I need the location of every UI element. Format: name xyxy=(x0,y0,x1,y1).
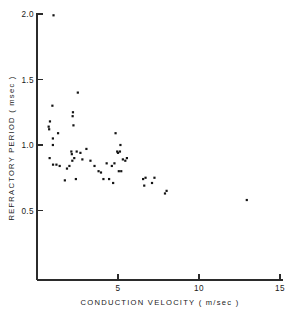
data-point xyxy=(49,120,51,122)
data-point xyxy=(59,165,61,167)
data-point xyxy=(77,92,79,94)
data-point xyxy=(93,165,95,167)
y-tick-label: 2.0 xyxy=(21,10,34,19)
data-point xyxy=(79,152,81,154)
data-point xyxy=(73,157,75,159)
data-point xyxy=(48,126,50,128)
data-point xyxy=(76,150,78,152)
data-point xyxy=(113,162,115,164)
data-point xyxy=(52,137,54,139)
data-point xyxy=(89,160,91,162)
y-tick-label: 0.5 xyxy=(21,207,34,216)
data-point xyxy=(72,111,74,113)
y-tick-label: 1.0 xyxy=(21,141,34,150)
x-axis-ticks: 51015 xyxy=(116,274,285,293)
data-point xyxy=(126,157,128,159)
data-point xyxy=(52,144,54,146)
data-point xyxy=(143,185,145,187)
data-point xyxy=(246,199,248,201)
data-point xyxy=(122,158,124,160)
data-point xyxy=(108,178,110,180)
data-point xyxy=(119,150,121,152)
y-axis-title: REFRACTORY PERIOD ( msec ) xyxy=(7,75,16,220)
data-point xyxy=(117,152,119,154)
data-point xyxy=(164,192,166,194)
data-point xyxy=(52,164,54,166)
x-axis-title: CONDUCTION VELOCITY ( m/sec ) xyxy=(81,298,240,307)
data-point xyxy=(85,148,87,150)
data-point xyxy=(51,105,53,107)
x-tick-label: 10 xyxy=(194,284,204,293)
data-point xyxy=(112,182,114,184)
data-point xyxy=(144,177,146,179)
scatter-plot-figure: 0.51.01.52.0 51015 CONDUCTION VELOCITY (… xyxy=(0,0,292,316)
data-point xyxy=(48,128,50,130)
data-point xyxy=(64,179,66,181)
data-point xyxy=(68,165,70,167)
data-point xyxy=(66,167,68,169)
data-point xyxy=(124,160,126,162)
data-point xyxy=(49,157,51,159)
data-point xyxy=(120,170,122,172)
data-point xyxy=(52,14,54,16)
data-points-layer xyxy=(48,14,248,201)
data-point xyxy=(72,115,74,117)
data-point xyxy=(166,190,168,192)
data-point xyxy=(72,124,74,126)
data-point xyxy=(75,178,77,180)
y-axis-ticks: 0.51.01.52.0 xyxy=(21,10,43,216)
y-tick-label: 1.5 xyxy=(21,76,34,85)
data-point xyxy=(57,132,59,134)
data-point xyxy=(151,182,153,184)
plot-canvas: 0.51.01.52.0 51015 CONDUCTION VELOCITY (… xyxy=(0,0,292,316)
data-point xyxy=(70,150,72,152)
data-point xyxy=(142,178,144,180)
data-point xyxy=(111,165,113,167)
data-point xyxy=(71,153,73,155)
data-point xyxy=(118,170,120,172)
data-point xyxy=(102,178,104,180)
x-tick-label: 5 xyxy=(116,284,121,293)
data-point xyxy=(114,132,116,134)
data-point xyxy=(119,144,121,146)
data-point xyxy=(71,160,73,162)
data-point xyxy=(106,162,108,164)
data-point xyxy=(100,171,102,173)
data-point xyxy=(153,177,155,179)
x-tick-label: 15 xyxy=(275,284,285,293)
data-point xyxy=(97,170,99,172)
data-point xyxy=(81,158,83,160)
data-point xyxy=(55,164,57,166)
